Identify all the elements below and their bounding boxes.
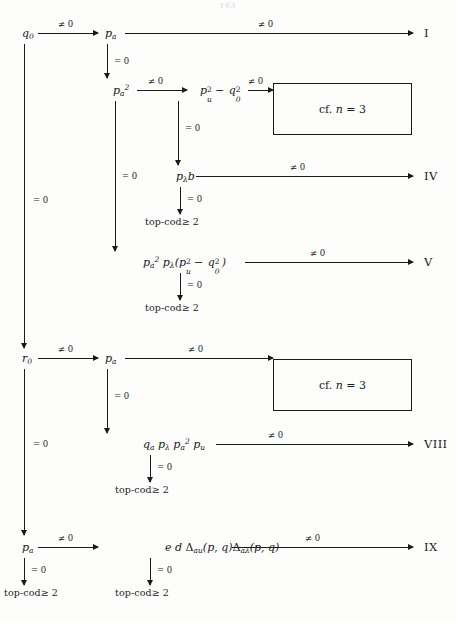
edge-label-eddelta-down: = 0 [157,566,172,575]
arrow-pa-to-eddelta [38,547,98,548]
arrow-pa2-to-pu2q02 [137,90,187,91]
arrow-ed-down-to-topcod [150,558,151,585]
terminal-I: I [424,26,429,40]
arrow-q0-down-to-r0 [24,44,25,348]
arrow-pa-down-to-qexpr [107,369,108,433]
arrow-pu2q02-to-box [248,90,273,91]
arrow-pa-to-I [125,33,413,34]
terminal-IV: IV [424,169,438,183]
arrow-qexpr-to-VIII [216,444,413,445]
edge-label-pa-to-box: ≠ 0 [188,345,203,354]
arrow-r0-to-pa [38,358,98,359]
cf-box-top-label: cf. n = 3 [319,103,366,116]
edge-label-expr-down: = 0 [187,281,202,290]
arrow-qexpr-down-to-topcod [150,455,151,482]
terminal-V: V [424,255,433,269]
node-pa-mid: pa [105,353,117,364]
node-pa-squared: pa2 [113,85,129,96]
edge-label-plb-to-IV: ≠ 0 [290,163,305,172]
edge-label-pamid-down: = 0 [114,392,129,401]
edge-label-plb-down: = 0 [187,195,202,204]
node-qa-plambda-pa2-pu: qa pλ pa2 pu [143,439,205,450]
topcod-leaf-expr: top-cod≥ 2 [145,302,199,313]
arrow-expr-to-V [245,262,413,263]
edge-label-expr-to-V: ≠ 0 [310,249,325,258]
terminal-VIII: VIII [424,437,448,451]
node-p-lambda-b: pλb [176,171,195,182]
edge-label-pu2-to-box: ≠ 0 [248,77,263,86]
edge-label-r0-to-pa: ≠ 0 [58,345,73,354]
terminal-IX: IX [424,540,438,554]
page-folio-number: 163 [0,2,456,10]
edge-label-pa-to-I: ≠ 0 [258,20,273,29]
edge-label-r0-down: = 0 [33,440,48,449]
node-pa-top: pa [105,28,117,39]
edge-label-pa-down: = 0 [114,57,129,66]
edge-label-qexpr-down: = 0 [157,463,172,472]
edge-label-qexpr-to-VIII: ≠ 0 [268,431,283,440]
edge-label-q0-to-pa: ≠ 0 [58,20,73,29]
arrow-plb-to-IV [196,176,413,177]
cf-box-bottom: cf. n = 3 [273,359,412,411]
node-pa2-plambda-expr: pa2 pλ(pu2− q02) [143,257,226,268]
node-pu2-minus-q02: pu2− q02 [200,85,243,96]
arrow-pa-down-to-pa2 [107,44,108,78]
edge-label-pa2-to-pu2: ≠ 0 [148,77,163,86]
arrow-pa-to-box [125,358,273,359]
cf-box-bottom-label: cf. n = 3 [319,379,366,392]
topcod-leaf-ed-bot: top-cod≥ 2 [115,587,169,598]
arrow-expr-down-to-topcod [180,273,181,300]
node-r0: r0 [22,353,32,364]
cf-box-top: cf. n = 3 [273,83,412,135]
arrow-q0-to-pa [38,33,98,34]
arrow-plb-down-to-topcod [180,187,181,214]
topcod-leaf-pa-bot: top-cod≥ 2 [4,587,58,598]
arrow-pu2q02-down-to-plb [178,101,179,165]
edge-label-pabot-down: = 0 [31,566,46,575]
edge-label-q0-down: = 0 [33,196,48,205]
edge-label-pa2-down: = 0 [122,172,137,181]
node-pa-bottom: pa [22,542,34,553]
arrow-r0-down-to-pa [24,369,25,535]
edge-label-pa-to-eddelta: ≠ 0 [58,534,73,543]
diagram-page: 163 q0 pa pa2 pu2− q02 pλb pa2 pλ(pu2− q… [0,0,456,623]
edge-label-eddelta-to-IX: ≠ 0 [305,534,320,543]
node-q0: q0 [22,28,34,39]
arrow-pa2-down-to-expr [115,101,116,251]
arrow-pa-down-to-topcod [24,558,25,585]
edge-label-pu2-down: = 0 [185,124,200,133]
topcod-leaf-plb: top-cod≥ 2 [145,216,199,227]
arrow-eddelta-to-IX [232,547,413,548]
topcod-leaf-qexpr: top-cod≥ 2 [115,484,169,495]
